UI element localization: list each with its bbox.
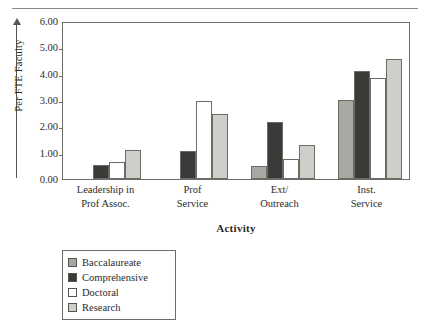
legend-item-label: Baccalaureate bbox=[82, 257, 141, 269]
bar-baccalaureate-3 bbox=[251, 166, 267, 179]
legend-item-label: Doctoral bbox=[82, 287, 119, 299]
bar-group bbox=[338, 23, 402, 179]
bar-comprehensive-4 bbox=[354, 71, 370, 179]
bar-chart-figure: Per FTE Faculty 6.005.004.003.002.001.00… bbox=[0, 0, 430, 335]
bar-group bbox=[164, 23, 228, 179]
bar-comprehensive-3 bbox=[267, 122, 283, 179]
bar-research-3 bbox=[299, 145, 315, 179]
legend-swatch-icon bbox=[68, 273, 77, 282]
x-tick-label-line: Service bbox=[311, 197, 422, 211]
x-tick-label-line: Inst. bbox=[311, 183, 422, 197]
y-tick-mark bbox=[59, 76, 63, 77]
y-tick-label: 4.00 bbox=[24, 69, 58, 81]
y-tick-label: 1.00 bbox=[24, 148, 58, 160]
x-axis-title: Activity bbox=[62, 222, 410, 234]
legend-item-doctoral[interactable]: Doctoral bbox=[68, 285, 170, 300]
x-axis-tick-labels: Leadership inProf Assoc.ProfServiceExt/O… bbox=[62, 183, 410, 221]
plot-bars-container bbox=[63, 23, 409, 179]
y-tick-label: 2.00 bbox=[24, 121, 58, 133]
bar-comprehensive-1 bbox=[93, 165, 109, 179]
y-tick-label: 5.00 bbox=[24, 42, 58, 54]
legend-item-comprehensive[interactable]: Comprehensive bbox=[68, 270, 170, 285]
plot-area bbox=[62, 22, 410, 180]
legend-swatch-icon bbox=[68, 303, 77, 312]
y-axis-tick-labels: 6.005.004.003.002.001.000.00 bbox=[24, 16, 58, 186]
bar-doctoral-4 bbox=[370, 78, 386, 179]
bar-group bbox=[77, 23, 141, 179]
y-tick-mark bbox=[59, 49, 63, 50]
bar-doctoral-1 bbox=[109, 162, 125, 179]
legend-swatch-icon bbox=[68, 288, 77, 297]
bar-baccalaureate-4 bbox=[338, 100, 354, 179]
bar-research-4 bbox=[386, 59, 402, 179]
y-tick-label: 6.00 bbox=[24, 16, 58, 28]
x-tick-label: Inst.Service bbox=[311, 183, 422, 210]
chart-legend: BaccalaureateComprehensiveDoctoralResear… bbox=[62, 250, 176, 320]
y-tick-label: 3.00 bbox=[24, 95, 58, 107]
bar-research-1 bbox=[125, 150, 141, 179]
legend-item-baccalaureate[interactable]: Baccalaureate bbox=[68, 255, 170, 270]
bar-comprehensive-2 bbox=[180, 151, 196, 179]
bar-doctoral-2 bbox=[196, 101, 212, 179]
y-axis-title: Per FTE Faculty bbox=[13, 12, 24, 140]
bar-group bbox=[251, 23, 315, 179]
legend-item-research[interactable]: Research bbox=[68, 300, 170, 315]
bar-research-2 bbox=[212, 114, 228, 179]
bar-doctoral-3 bbox=[283, 159, 299, 179]
legend-swatch-icon bbox=[68, 258, 77, 267]
y-tick-mark bbox=[59, 128, 63, 129]
y-tick-mark bbox=[59, 155, 63, 156]
legend-item-label: Comprehensive bbox=[82, 272, 148, 284]
legend-item-label: Research bbox=[82, 302, 120, 314]
y-tick-mark bbox=[59, 102, 63, 103]
